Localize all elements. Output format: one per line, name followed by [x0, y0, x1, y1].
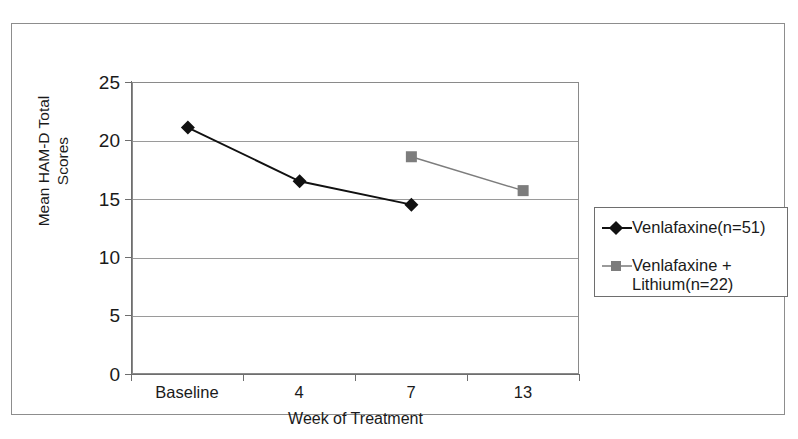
- x-tick-mark-1: [243, 374, 244, 381]
- y-axis-title: Mean HAM-D Total Scores: [34, 74, 72, 248]
- x-tick-label-baseline: Baseline: [131, 382, 243, 402]
- legend-label-venlafaxine-lithium: Venlafaxine + Lithium(n=22): [632, 256, 733, 294]
- x-tick-mark-3: [467, 374, 468, 381]
- x-axis-title: Week of Treatment: [132, 409, 579, 429]
- y-tick-label-0: 0: [76, 365, 120, 384]
- x-tick-mark-0: [131, 374, 132, 381]
- gridline-20: [133, 141, 578, 142]
- legend-label-venlafaxine: Venlafaxine(n=51): [632, 218, 765, 237]
- y-tick-mark-15: [125, 199, 132, 200]
- y-tick-mark-5: [125, 315, 132, 316]
- x-tick-label-7: 7: [355, 382, 467, 402]
- y-tick-label-15: 15: [76, 190, 120, 209]
- diamond-marker-icon: [602, 219, 632, 237]
- gridline-10: [133, 258, 578, 259]
- legend-entry-venlafaxine[interactable]: Venlafaxine(n=51): [602, 218, 765, 237]
- figure-frame: 25 20 15 10 5 0 Mean HAM-D Total Scores …: [11, 23, 785, 415]
- chart-legend: Venlafaxine(n=51) Venlafaxine + Lithium(…: [594, 207, 788, 297]
- plot-area: [132, 82, 579, 374]
- x-tick-mark-2: [355, 374, 356, 381]
- gridline-15: [133, 199, 578, 200]
- y-tick-label-5: 5: [76, 306, 120, 325]
- y-tick-mark-10: [125, 257, 132, 258]
- x-tick-mark-4: [579, 374, 580, 381]
- square-marker-icon: [602, 257, 632, 275]
- y-axis-tick-labels: 25 20 15 10 5 0: [74, 24, 120, 414]
- gridline-5: [133, 316, 578, 317]
- y-tick-label-10: 10: [76, 248, 120, 267]
- x-tick-label-4: 4: [243, 382, 355, 402]
- y-tick-label-25: 25: [76, 73, 120, 92]
- y-tick-mark-25: [125, 82, 132, 83]
- y-tick-mark-20: [125, 140, 132, 141]
- legend-entry-venlafaxine-lithium[interactable]: Venlafaxine + Lithium(n=22): [602, 256, 733, 294]
- y-axis-line: [131, 81, 132, 375]
- x-tick-label-13: 13: [467, 382, 579, 402]
- y-tick-label-20: 20: [76, 131, 120, 150]
